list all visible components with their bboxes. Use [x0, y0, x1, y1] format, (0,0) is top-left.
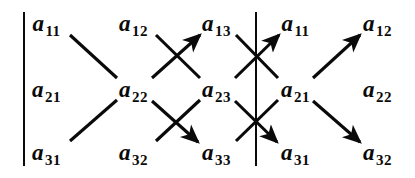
entry-subscript: 31	[294, 152, 310, 168]
entry-base: a	[281, 77, 293, 102]
middle-matrix-bar	[255, 12, 257, 166]
sarrus-determinant-diagram: a11 a12 a13 a11 a12 a21 a22 a23 a21 a22 …	[0, 0, 415, 178]
entry-base: a	[363, 11, 375, 36]
entry-base: a	[363, 140, 375, 165]
entry-subscript: 21	[45, 89, 61, 105]
entry-subscript: 22	[376, 89, 392, 105]
matrix-entry: a32	[363, 141, 391, 164]
entry-base: a	[202, 77, 214, 102]
entry-subscript: 32	[376, 152, 392, 168]
matrix-entry: a21	[32, 78, 60, 101]
entry-subscript: 22	[132, 89, 148, 105]
entry-base: a	[202, 11, 214, 36]
matrix-entry: a11	[32, 12, 59, 35]
entry-base: a	[281, 11, 293, 36]
matrix-entry: a22	[119, 78, 147, 101]
entry-base: a	[119, 11, 131, 36]
matrix-entry: a23	[202, 78, 230, 101]
matrix-entry: a12	[363, 12, 391, 35]
entry-subscript: 31	[45, 152, 61, 168]
matrix-entry: a32	[119, 141, 147, 164]
diagonal-arrow	[313, 35, 360, 78]
entry-subscript: 21	[294, 89, 310, 105]
entry-base: a	[32, 77, 44, 102]
diagonal-line	[156, 35, 200, 78]
entry-base: a	[119, 140, 131, 165]
entry-subscript: 12	[132, 23, 148, 39]
matrix-entry: a21	[281, 78, 309, 101]
matrix-entry: a12	[119, 12, 147, 35]
diagonal-line	[156, 100, 200, 141]
diagonal-line	[70, 100, 117, 141]
diagonal-arrow	[152, 35, 200, 78]
entry-base: a	[119, 77, 131, 102]
left-matrix-bar	[23, 12, 25, 166]
matrix-entry: a33	[202, 141, 230, 164]
entry-base: a	[363, 77, 375, 102]
entry-subscript: 32	[132, 152, 148, 168]
entry-base: a	[281, 140, 293, 165]
entry-subscript: 11	[294, 23, 309, 39]
diagonal-line	[236, 100, 278, 141]
matrix-entry: a13	[202, 12, 230, 35]
entry-subscript: 12	[376, 23, 392, 39]
entry-base: a	[32, 140, 44, 165]
diagonal-line	[236, 35, 278, 78]
diagonal-arrow	[152, 101, 198, 142]
entry-subscript: 13	[215, 23, 231, 39]
matrix-entry: a31	[281, 141, 309, 164]
diagonal-arrow	[313, 101, 360, 142]
entry-subscript: 33	[215, 152, 231, 168]
matrix-entry: a31	[32, 141, 60, 164]
entry-base: a	[32, 11, 44, 36]
diagonal-arrow	[235, 35, 279, 78]
entry-base: a	[202, 140, 214, 165]
entry-subscript: 11	[45, 23, 60, 39]
matrix-entry: a11	[281, 12, 308, 35]
diagonal-line	[70, 35, 117, 78]
entry-subscript: 23	[215, 89, 231, 105]
matrix-entry: a22	[363, 78, 391, 101]
